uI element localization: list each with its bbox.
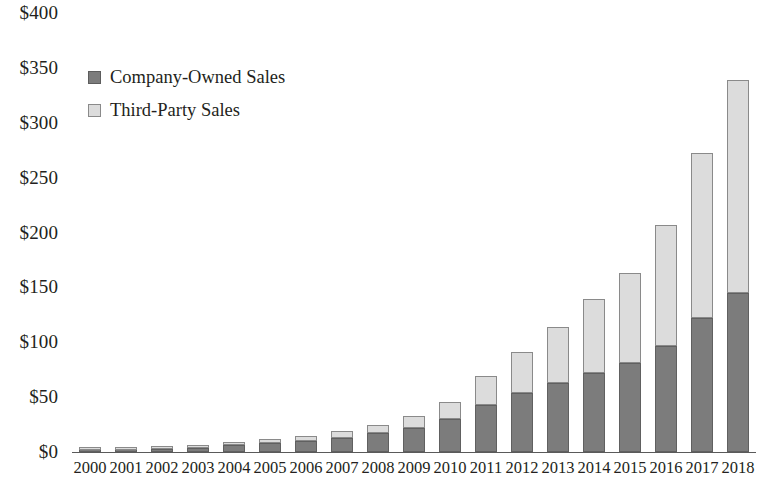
bar-segment (79, 447, 101, 450)
legend-swatch-icon-company-owned-sales (88, 71, 101, 84)
bar-segment (547, 383, 569, 452)
y-axis-tick-label: $400 (20, 3, 58, 22)
bar-segment (691, 153, 713, 318)
x-axis-tick-label: 2016 (648, 458, 684, 478)
x-axis-tick-label: 2018 (720, 458, 756, 478)
bar-segment (547, 327, 569, 383)
legend-swatch-icon-third-party-sales (88, 104, 101, 117)
bar-group (619, 0, 641, 452)
bar-segment (331, 431, 353, 438)
bar-group (511, 0, 533, 452)
bar-segment (331, 438, 353, 452)
x-axis-tick-label: 2000 (72, 458, 108, 478)
bar-segment (439, 419, 461, 452)
bar-group (583, 0, 605, 452)
bar-segment (367, 425, 389, 434)
bar-segment (727, 293, 749, 452)
bar-segment (223, 445, 245, 452)
x-axis-tick-label: 2007 (324, 458, 360, 478)
legend-item-company-owned-sales: Company-Owned Sales (88, 64, 348, 91)
x-axis-tick-label: 2014 (576, 458, 612, 478)
x-axis-tick-label: 2003 (180, 458, 216, 478)
x-axis: 2000200120022003200420052006200720082009… (72, 456, 756, 485)
y-axis-tick-label: $0 (39, 442, 58, 461)
bar-segment (259, 439, 281, 443)
bar-group (439, 0, 461, 452)
bar-segment (727, 80, 749, 293)
bar-segment (691, 318, 713, 452)
bar-segment (151, 446, 173, 449)
x-axis-tick-label: 2002 (144, 458, 180, 478)
x-axis-tick-label: 2017 (684, 458, 720, 478)
bar-segment (295, 441, 317, 452)
x-axis-tick-label: 2001 (108, 458, 144, 478)
x-axis-tick-label: 2005 (252, 458, 288, 478)
bar-segment (511, 393, 533, 452)
bar-group (691, 0, 713, 452)
bar-segment (583, 373, 605, 452)
legend-label-third-party-sales: Third-Party Sales (110, 101, 240, 120)
y-axis-tick-label: $100 (20, 332, 58, 351)
bar-group (655, 0, 677, 452)
bar-segment (655, 225, 677, 346)
legend-label-company-owned-sales: Company-Owned Sales (110, 68, 285, 87)
bar-group (403, 0, 425, 452)
bar-segment (151, 449, 173, 452)
x-axis-tick-label: 2015 (612, 458, 648, 478)
bar-segment (475, 376, 497, 405)
bar-segment (187, 448, 209, 452)
bar-segment (295, 436, 317, 441)
bar-segment (259, 443, 281, 452)
bar-segment (187, 445, 209, 448)
x-axis-tick-label: 2013 (540, 458, 576, 478)
legend-item-third-party-sales: Third-Party Sales (88, 97, 348, 124)
x-axis-line (72, 452, 756, 453)
y-axis-tick-label: $300 (20, 113, 58, 132)
x-axis-tick-label: 2006 (288, 458, 324, 478)
bar-segment (403, 428, 425, 452)
x-axis-tick-label: 2010 (432, 458, 468, 478)
y-axis-tick-label: $50 (29, 387, 58, 406)
bar-segment (655, 346, 677, 452)
bar-segment (439, 402, 461, 420)
bar-group (475, 0, 497, 452)
y-axis-tick-label: $200 (20, 223, 58, 242)
y-axis-tick-label: $350 (20, 58, 58, 77)
x-axis-tick-label: 2009 (396, 458, 432, 478)
x-axis-tick-label: 2004 (216, 458, 252, 478)
x-axis-tick-label: 2008 (360, 458, 396, 478)
y-axis-tick-label: $150 (20, 277, 58, 296)
bar-group (727, 0, 749, 452)
bar-segment (583, 299, 605, 373)
bar-segment (223, 442, 245, 445)
bar-group (367, 0, 389, 452)
bar-segment (115, 447, 137, 450)
bar-group (547, 0, 569, 452)
x-axis-tick-label: 2011 (468, 458, 504, 478)
bar-segment (475, 405, 497, 452)
x-axis-tick-label: 2012 (504, 458, 540, 478)
bar-segment (619, 363, 641, 452)
bar-segment (619, 273, 641, 363)
chart-legend: Company-Owned Sales Third-Party Sales (88, 64, 348, 130)
y-axis-tick-label: $250 (20, 168, 58, 187)
stacked-bar-chart: $0$50$100$150$200$250$300$350$400 200020… (0, 0, 759, 485)
bar-segment (403, 416, 425, 428)
y-axis: $0$50$100$150$200$250$300$350$400 (0, 0, 68, 485)
bar-segment (511, 352, 533, 393)
bar-segment (367, 433, 389, 452)
